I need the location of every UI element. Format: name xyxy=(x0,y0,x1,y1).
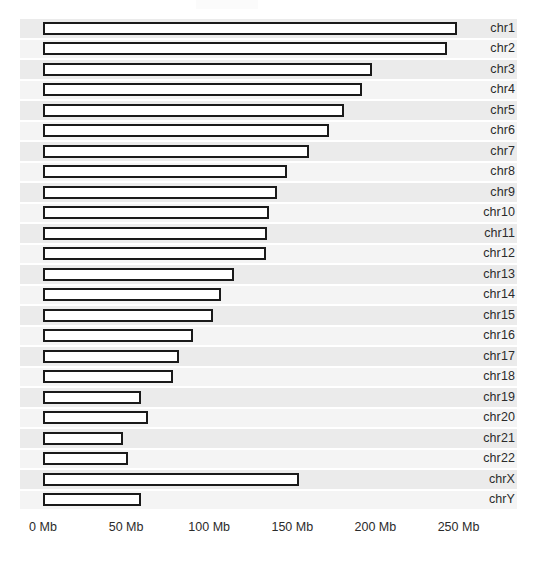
chromosome-bar xyxy=(43,165,287,178)
row-label-chr21: chr21 xyxy=(445,431,515,445)
chromosome-bar xyxy=(43,370,173,383)
chromosome-row: chr13 xyxy=(20,264,517,285)
chromosome-row: chr15 xyxy=(20,305,517,326)
chromosome-bar xyxy=(43,247,266,260)
chromosome-row: chr12 xyxy=(20,244,517,265)
chromosome-row: chr8 xyxy=(20,162,517,183)
row-label-chr5: chr5 xyxy=(445,103,515,117)
chromosome-bar xyxy=(43,104,344,117)
row-label-chr2: chr2 xyxy=(445,41,515,55)
chromosome-bar xyxy=(43,22,457,35)
chromosome-bar xyxy=(43,391,141,404)
chromosome-bar xyxy=(43,452,128,465)
chromosome-row: chr11 xyxy=(20,223,517,244)
chromosome-bar xyxy=(43,350,179,363)
chromosome-bar xyxy=(43,124,329,137)
x-tick-label: 50 Mb xyxy=(109,520,144,534)
chromosome-row: chr14 xyxy=(20,285,517,306)
chromosome-bar xyxy=(43,473,299,486)
chromosome-bar xyxy=(43,268,234,281)
row-label-chr3: chr3 xyxy=(445,62,515,76)
row-label-chr11: chr11 xyxy=(445,226,515,240)
chromosome-bar xyxy=(43,432,123,445)
row-label-chr10: chr10 xyxy=(445,205,515,219)
chromosome-row: chr16 xyxy=(20,326,517,347)
row-label-chr4: chr4 xyxy=(445,82,515,96)
row-label-chrX: chrX xyxy=(445,472,515,486)
chromosome-row: chrX xyxy=(20,469,517,490)
row-label-chr6: chr6 xyxy=(445,123,515,137)
x-tick-label: 100 Mb xyxy=(188,520,230,534)
row-label-chr22: chr22 xyxy=(445,451,515,465)
chromosome-row: chr7 xyxy=(20,141,517,162)
row-label-chr17: chr17 xyxy=(445,349,515,363)
chromosome-row: chr4 xyxy=(20,80,517,101)
chromosome-row: chrY xyxy=(20,490,517,511)
x-tick-label: 0 Mb xyxy=(29,520,57,534)
chromosome-row: chr9 xyxy=(20,182,517,203)
row-label-chr14: chr14 xyxy=(445,287,515,301)
row-label-chr8: chr8 xyxy=(445,164,515,178)
row-label-chr20: chr20 xyxy=(445,410,515,424)
chromosome-bar xyxy=(43,493,141,506)
chromosome-row: chr21 xyxy=(20,428,517,449)
chromosome-row: chr20 xyxy=(20,408,517,429)
chromosome-row: chr3 xyxy=(20,59,517,80)
row-label-chr18: chr18 xyxy=(445,369,515,383)
row-label-chrY: chrY xyxy=(445,492,515,506)
chromosome-row: chr5 xyxy=(20,100,517,121)
x-tick-label: 200 Mb xyxy=(355,520,397,534)
x-axis: 0 Mb50 Mb100 Mb150 Mb200 Mb250 Mb xyxy=(20,520,517,540)
row-label-chr12: chr12 xyxy=(445,246,515,260)
chromosome-bar xyxy=(43,63,372,76)
scan-artifact xyxy=(196,0,258,9)
chromosome-bar xyxy=(43,411,148,424)
row-label-chr16: chr16 xyxy=(445,328,515,342)
chromosome-row: chr1 xyxy=(20,18,517,39)
row-label-chr15: chr15 xyxy=(445,308,515,322)
chromosome-bar xyxy=(43,227,267,240)
chromosome-bar xyxy=(43,288,221,301)
chromosome-row: chr10 xyxy=(20,203,517,224)
chromosome-row: chr18 xyxy=(20,367,517,388)
chart-panel: chr1chr2chr3chr4chr5chr6chr7chr8chr9chr1… xyxy=(20,18,517,516)
x-tick-label: 250 Mb xyxy=(438,520,480,534)
row-label-chr7: chr7 xyxy=(445,144,515,158)
chromosome-row: chr22 xyxy=(20,449,517,470)
chromosome-bar xyxy=(43,309,213,322)
chromosome-bar xyxy=(43,186,277,199)
row-label-chr9: chr9 xyxy=(445,185,515,199)
chromosome-row: chr19 xyxy=(20,387,517,408)
chromosome-bar xyxy=(43,206,269,219)
x-tick-label: 150 Mb xyxy=(271,520,313,534)
row-label-chr13: chr13 xyxy=(445,267,515,281)
chromosome-bar xyxy=(43,329,193,342)
chromosome-row: chr2 xyxy=(20,39,517,60)
chromosome-bar xyxy=(43,42,447,55)
row-label-chr19: chr19 xyxy=(445,390,515,404)
row-label-chr1: chr1 xyxy=(445,21,515,35)
chromosome-bar xyxy=(43,83,362,96)
chromosome-length-chart: chr1chr2chr3chr4chr5chr6chr7chr8chr9chr1… xyxy=(0,0,547,564)
chromosome-bar xyxy=(43,145,309,158)
chromosome-row: chr6 xyxy=(20,121,517,142)
chromosome-row: chr17 xyxy=(20,346,517,367)
